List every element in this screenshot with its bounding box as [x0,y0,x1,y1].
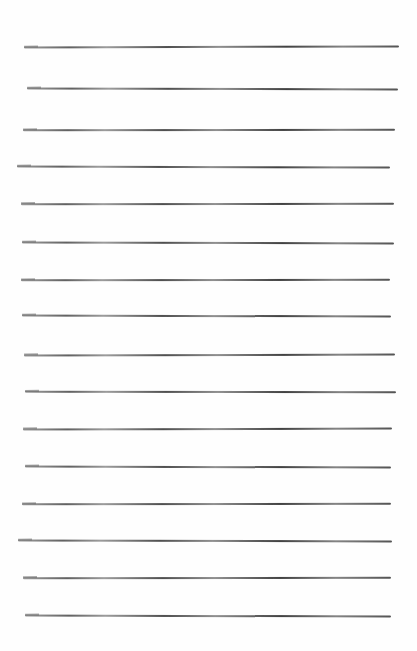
ruled-line [21,203,394,205]
ruled-line [27,88,398,91]
ruled-line [24,45,399,48]
lined-paper-page [0,0,417,651]
ruled-line [22,242,394,245]
ruled-line [21,279,390,282]
ruled-line [23,577,391,579]
ruled-line [25,391,396,393]
ruled-line [18,540,392,543]
ruled-line [25,615,391,618]
ruled-line [23,129,395,132]
ruled-line [25,466,391,469]
ruled-line [22,503,391,506]
ruled-line [22,315,391,318]
ruled-line [17,166,390,169]
ruled-line [24,354,395,357]
ruled-line [23,428,392,431]
